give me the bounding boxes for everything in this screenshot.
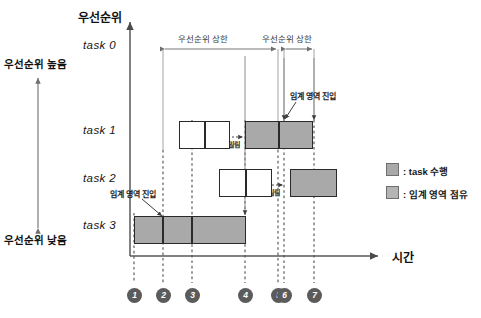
task-label-2: task 2 <box>83 172 116 184</box>
legend-swatch-task-run <box>386 163 399 176</box>
ceiling-label-1: 우선순위 상한 <box>178 32 228 44</box>
bar-task3-seg2 <box>163 216 192 244</box>
bar-task1-seg1 <box>179 121 205 149</box>
ceiling-span-2 <box>284 49 314 120</box>
tick-circle-6: 6 <box>277 288 292 303</box>
tick-circle-3: 3 <box>185 288 200 303</box>
task-label-3: task 3 <box>83 219 116 231</box>
critical-entry-pointer-2 <box>285 102 296 119</box>
bar-task1-seg3 <box>245 121 279 149</box>
priority-low-label: 우선순위 낮음 <box>4 232 67 247</box>
diagram-canvas: 우선순위 시간 우선순위 높음 우선순위 낮음 task 0 task 1 ta… <box>0 0 481 318</box>
ceiling-label-2: 우선순위 상한 <box>262 32 312 44</box>
bar-task1-seg2 <box>205 121 230 149</box>
legend-label-critical: : 임계 영역 점유 <box>403 187 468 201</box>
task-label-0: task 0 <box>83 39 116 51</box>
y-axis-title: 우선순위 <box>78 8 122 25</box>
diagram-vector-layer <box>0 0 481 318</box>
tick-circle-1: 1 <box>127 288 142 303</box>
bar-task2-seg2 <box>246 169 272 197</box>
tick-circle-4: 4 <box>238 288 253 303</box>
critical-entry-label-1: 임계 영역 진입 <box>110 188 156 199</box>
bar-task2-seg3 <box>290 169 337 197</box>
x-axis-title: 시간 <box>392 248 414 265</box>
legend-swatch-critical <box>386 186 399 199</box>
bar-task2-seg1 <box>219 169 246 197</box>
bar-task1-seg4 <box>279 121 313 149</box>
tick-circle-7: 7 <box>307 288 322 303</box>
critical-entry-pointer-1 <box>142 199 162 216</box>
tick-circle-2: 2 <box>156 288 171 303</box>
priority-high-label: 우선순위 높음 <box>4 56 67 71</box>
bar-task3-seg3 <box>192 216 246 244</box>
task-label-1: task 1 <box>83 124 116 136</box>
critical-entry-label-2: 임계 영역 진입 <box>290 90 336 101</box>
legend-label-task-run: : task 수행 <box>403 164 448 178</box>
bar-task3-seg1 <box>134 216 163 244</box>
